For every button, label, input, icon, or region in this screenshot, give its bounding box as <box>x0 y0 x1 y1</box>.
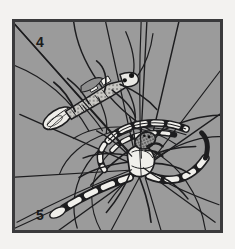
panel-number-4: 4 <box>36 35 44 49</box>
illustration-panel: 4 5 <box>12 19 223 233</box>
web-illustration <box>15 22 220 230</box>
panel-number-5: 5 <box>36 208 44 222</box>
insect-head <box>120 72 139 86</box>
figure-root: 4 5 <box>0 0 235 249</box>
